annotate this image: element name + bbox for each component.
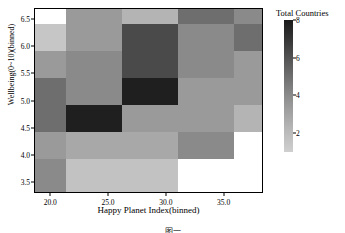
colorbar-tick-label: 2 (296, 129, 300, 138)
colorbar-tick-mark (293, 20, 296, 21)
colorbar-gradient-bar (284, 20, 293, 152)
heatmap-cell (66, 159, 122, 192)
heatmap-cell (234, 51, 262, 78)
heatmap-cell (35, 132, 66, 159)
y-tick-label: 3.5 (21, 178, 30, 187)
y-tick-label: 4.0 (21, 150, 30, 159)
heatmap-cell (178, 24, 234, 51)
y-axis-label: Wellbeing(0~10)(binned) (7, 0, 16, 140)
x-tick-mark (50, 193, 51, 196)
heatmap-cell (178, 105, 234, 132)
x-tick-mark (165, 193, 166, 196)
heatmap-cell (234, 9, 262, 24)
x-tick-mark (108, 193, 109, 196)
heatmap-cell (35, 9, 66, 24)
heatmap-cell (234, 78, 262, 105)
heatmap-cell (66, 78, 122, 105)
heatmap-cell (178, 78, 234, 105)
colorbar-tick-mark (293, 57, 296, 58)
heatmap-cell (35, 24, 66, 51)
colorbar-title: Total Countries (276, 8, 329, 18)
heatmap-cell (178, 9, 234, 24)
y-tick-label: 6.5 (21, 14, 30, 23)
colorbar-tick-label: 8 (296, 16, 300, 25)
heatmap-cell (122, 159, 178, 192)
y-tick-label: 6.0 (21, 42, 30, 51)
heatmap-cell (178, 132, 234, 159)
colorbar-tick-label: 6 (296, 53, 300, 62)
heatmap-cell (122, 105, 178, 132)
heatmap-cell (66, 132, 122, 159)
heatmap-cell (35, 51, 66, 78)
y-axis: Wellbeing(0~10)(binned) 6.56.05.55.04.54… (0, 8, 34, 193)
heatmap-cell (234, 105, 262, 132)
colorbar-tick-mark (293, 95, 296, 96)
heatmap-cell (234, 24, 262, 51)
heatmap-cell (35, 78, 66, 105)
y-tick-label: 4.5 (21, 123, 30, 132)
y-tick-label: 5.5 (21, 69, 30, 78)
heatmap-cell (66, 105, 122, 132)
heatmap-cell (66, 9, 122, 24)
colorbar: Total Countries 8642 (276, 8, 342, 158)
colorbar-tick-label: 4 (296, 91, 300, 100)
figure-caption: 图一 (0, 226, 345, 233)
heatmap-cell (178, 51, 234, 78)
heatmap-cell-grid (35, 9, 262, 192)
heatmap-cell (122, 24, 178, 51)
heatmap-cell (234, 159, 262, 192)
heatmap-cell (122, 132, 178, 159)
heatmap-cell (178, 159, 234, 192)
heatmap-plot-area[interactable] (34, 8, 263, 193)
heatmap-cell (66, 24, 122, 51)
y-tick-label: 5.0 (21, 96, 30, 105)
heatmap-cell (122, 78, 178, 105)
heatmap-figure: Wellbeing(0~10)(binned) 6.56.05.55.04.54… (0, 0, 345, 233)
heatmap-cell (122, 9, 178, 24)
x-tick-mark (223, 193, 224, 196)
colorbar-tick-mark (293, 133, 296, 134)
heatmap-cell (35, 105, 66, 132)
heatmap-cell (122, 51, 178, 78)
heatmap-cell (66, 51, 122, 78)
x-axis-label: Happy Planet Index(binned) (34, 205, 263, 215)
heatmap-cell (35, 159, 66, 192)
heatmap-cell (234, 132, 262, 159)
